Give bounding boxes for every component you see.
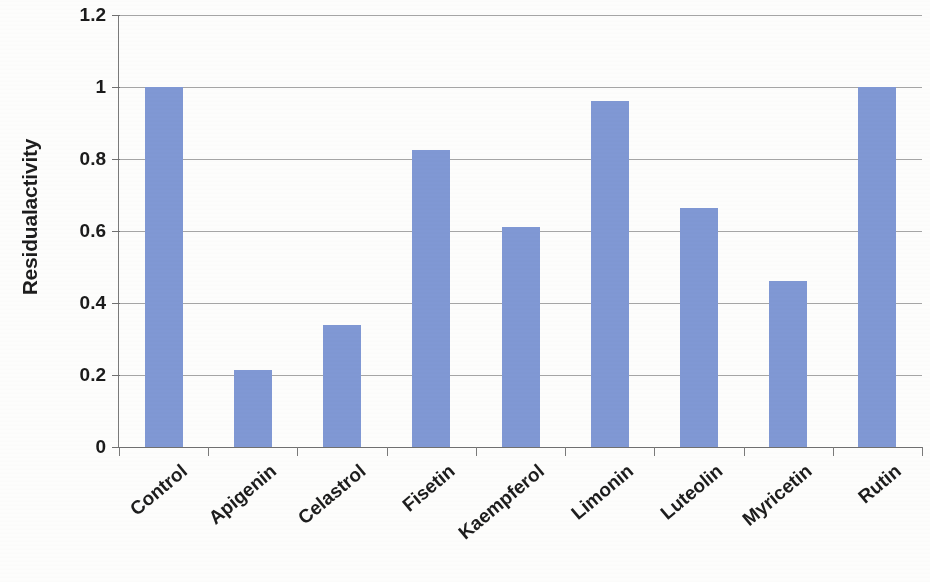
bar-myricetin: [769, 281, 807, 447]
bar-control: [145, 87, 183, 447]
y-axis-tick-mark: [112, 303, 120, 304]
y-axis-tick-mark: [112, 159, 120, 160]
bar-kaempferol: [502, 227, 540, 447]
y-axis-tick-mark: [112, 375, 120, 376]
bar-chart-figure: Residualactivity 00.20.40.60.811.2 Contr…: [0, 0, 930, 582]
y-axis-tick-labels: 00.20.40.60.811.2: [0, 0, 106, 582]
x-axis-tick-mark: [922, 447, 923, 456]
plot-area: [119, 15, 922, 447]
gridline: [119, 87, 922, 88]
bar-limonin: [591, 101, 629, 447]
x-axis-tick-mark: [565, 447, 566, 456]
bar-apigenin: [234, 370, 272, 447]
x-axis-tick-mark: [476, 447, 477, 456]
y-axis-tick-label: 0.8: [0, 148, 106, 170]
x-axis-tick-mark: [744, 447, 745, 456]
x-axis-tick-mark: [833, 447, 834, 456]
y-axis-tick-mark: [112, 231, 120, 232]
y-axis-tick-label: 0.2: [0, 364, 106, 386]
x-axis-tick-mark: [208, 447, 209, 456]
bar-luteolin: [680, 208, 718, 447]
y-axis-tick-mark: [112, 87, 120, 88]
x-axis-tick-mark: [387, 447, 388, 456]
y-axis-tick-mark: [112, 15, 120, 16]
bar-celastrol: [323, 325, 361, 447]
x-axis-tick-mark: [654, 447, 655, 456]
y-axis-tick-label: 0.6: [0, 220, 106, 242]
x-axis-tick-mark: [119, 447, 120, 456]
y-axis-tick-label: 0.4: [0, 292, 106, 314]
bar-fisetin: [412, 150, 450, 447]
y-axis-tick-label: 1.2: [0, 4, 106, 26]
bar-rutin: [858, 87, 896, 447]
x-axis-baseline: [119, 447, 922, 448]
gridline: [119, 159, 922, 160]
y-axis-tick-label: 0: [0, 436, 106, 458]
y-axis-tick-mark: [112, 447, 120, 448]
y-axis-tick-label: 1: [0, 76, 106, 98]
gridline: [119, 15, 922, 16]
x-axis-tick-mark: [297, 447, 298, 456]
